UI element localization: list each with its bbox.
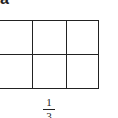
fraction-numerator: 1: [46, 96, 52, 108]
fraction-denominator: 3: [46, 110, 52, 118]
fraction-caption: 1 3: [42, 97, 56, 118]
fraction-grid: [0, 20, 99, 89]
figure-label: a: [0, 0, 9, 7]
grid-row-divider: [0, 54, 98, 55]
